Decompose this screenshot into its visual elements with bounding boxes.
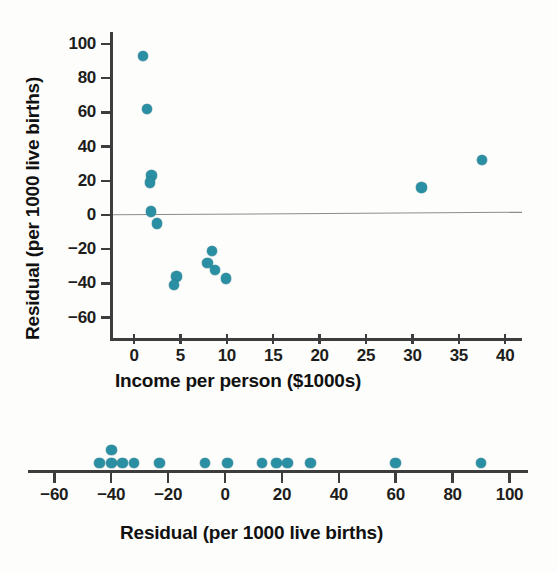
- dotplot-tick-mark: [508, 472, 511, 483]
- dotplot-dot: [282, 458, 293, 469]
- dotplot-tick-mark: [451, 472, 454, 483]
- scatter-point: [138, 51, 148, 61]
- scatter-point: [142, 104, 152, 114]
- x-axis-title: Income per person ($1000s): [115, 370, 361, 392]
- scatter-point: [169, 280, 179, 290]
- x-tick-mark: [226, 334, 229, 344]
- x-tick-label: 15: [264, 346, 282, 366]
- dotplot-dot: [117, 458, 128, 469]
- y-tick-mark: [101, 180, 111, 183]
- scatter-point: [152, 218, 162, 228]
- dotplot-tick-label: 60: [387, 485, 405, 505]
- y-tick-label: −40: [0, 273, 96, 293]
- x-tick-label: 35: [450, 346, 468, 366]
- dotplot-tick-label: 20: [273, 485, 291, 505]
- x-tick-label: 10: [218, 346, 236, 366]
- scatterplot-panel: 100806040200−20−40−60 0510152025303540 R…: [0, 0, 557, 400]
- scatter-point: [146, 206, 156, 216]
- dotplot-dot: [129, 458, 140, 469]
- dotplot-dot: [271, 458, 282, 469]
- scatter-point: [210, 265, 220, 275]
- y-tick-label: −20: [0, 239, 96, 259]
- y-tick-label: 100: [0, 34, 96, 54]
- x-tick-mark: [179, 334, 182, 344]
- x-tick-mark: [272, 334, 275, 344]
- y-tick-mark: [101, 77, 111, 80]
- x-tick-label: 30: [403, 346, 421, 366]
- dotplot-tick-mark: [281, 472, 284, 483]
- dotplot-dot: [257, 458, 268, 469]
- dotplot-dot: [106, 445, 117, 456]
- dotplot-panel: −60−40−20020406080100 Residual (per 1000…: [0, 400, 557, 572]
- dotplot-tick-label: −20: [154, 485, 182, 505]
- dotplot-dot: [106, 458, 117, 469]
- y-tick-mark: [101, 111, 111, 114]
- dotplot-dot: [200, 458, 211, 469]
- y-axis-title: Residual (per 1000 live births): [22, 77, 44, 340]
- y-tick-label: 20: [0, 171, 96, 191]
- dotplot-dot: [94, 458, 105, 469]
- x-axis-line: [110, 338, 522, 341]
- x-tick-mark: [318, 334, 321, 344]
- x-tick-label: 40: [496, 346, 514, 366]
- x-tick-mark: [133, 334, 136, 344]
- dotplot-tick-mark: [167, 472, 170, 483]
- y-tick-label: 60: [0, 102, 96, 122]
- x-tick-mark: [365, 334, 368, 344]
- y-tick-label: −60: [0, 308, 96, 328]
- scatter-point: [207, 246, 217, 256]
- dotplot-tick-mark: [53, 472, 56, 483]
- dotplot-tick-mark: [110, 472, 113, 483]
- zero-reference-line: [113, 212, 522, 216]
- dotplot-dot: [154, 458, 165, 469]
- y-tick-mark: [101, 145, 111, 148]
- y-tick-mark: [101, 316, 111, 319]
- dotplot-dot: [476, 458, 487, 469]
- x-tick-label: 5: [176, 346, 185, 366]
- scatter-point: [221, 273, 231, 283]
- y-tick-mark: [101, 248, 111, 251]
- dotplot-tick-mark: [394, 472, 397, 483]
- x-tick-label: 20: [310, 346, 328, 366]
- x-tick-mark: [458, 334, 461, 344]
- y-tick-label: 0: [0, 205, 96, 225]
- x-tick-mark: [504, 334, 507, 344]
- y-tick-mark: [101, 282, 111, 285]
- dotplot-dot: [222, 458, 233, 469]
- dotplot-tick-label: 100: [496, 485, 523, 505]
- dotplot-tick-mark: [338, 472, 341, 483]
- x-tick-mark: [411, 334, 414, 344]
- x-tick-label: 0: [129, 346, 138, 366]
- figure-root: 100806040200−20−40−60 0510152025303540 R…: [0, 0, 557, 572]
- y-tick-mark: [101, 214, 111, 217]
- dotplot-tick-label: 40: [330, 485, 348, 505]
- dotplot-tick-mark: [224, 472, 227, 483]
- dotplot-tick-label: −40: [97, 485, 125, 505]
- x-tick-label: 25: [357, 346, 375, 366]
- dotplot-dot: [305, 458, 316, 469]
- dotplot-tick-label: 0: [220, 485, 229, 505]
- scatter-point: [145, 177, 155, 187]
- y-tick-mark: [101, 43, 111, 46]
- scatter-point: [416, 182, 426, 192]
- dotplot-tick-label: −60: [40, 485, 68, 505]
- dotplot-axis-title: Residual (per 1000 live births): [120, 522, 383, 544]
- y-tick-label: 80: [0, 68, 96, 88]
- dotplot-dot: [390, 458, 401, 469]
- y-tick-label: 40: [0, 137, 96, 157]
- dotplot-tick-label: 80: [443, 485, 461, 505]
- scatter-point: [477, 155, 487, 165]
